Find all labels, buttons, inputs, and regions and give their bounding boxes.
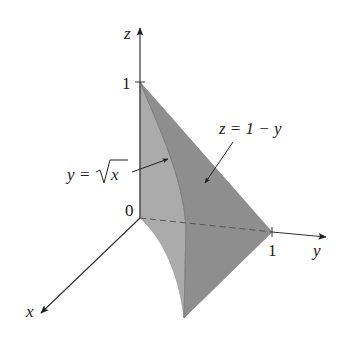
z-axis-label: z xyxy=(123,24,131,43)
cylinder-label: y = x xyxy=(65,160,128,184)
z-tick-label: 1 xyxy=(122,74,131,93)
y-axis xyxy=(272,232,326,237)
x-axis xyxy=(41,218,140,313)
svg-text:x: x xyxy=(110,165,119,184)
origin-label: 0 xyxy=(125,201,134,220)
svg-text:=: = xyxy=(80,165,90,184)
y-axis-label: y xyxy=(311,241,321,260)
y-tick-label: 1 xyxy=(268,241,277,260)
plane-label: z = 1 − y xyxy=(218,119,282,138)
svg-text:y: y xyxy=(65,165,75,184)
x-axis-label: x xyxy=(25,302,34,321)
diagram-canvas: z 1 0 1 y x y = x z = 1 − y xyxy=(0,0,344,341)
